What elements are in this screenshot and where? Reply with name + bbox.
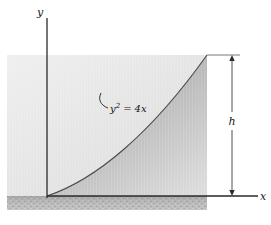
region-texture (7, 55, 207, 196)
ground-strip (7, 196, 207, 210)
equation-operator: = (123, 103, 131, 114)
parabola-figure: y x h y2=4x (0, 0, 271, 225)
equation-exponent: 2 (115, 102, 121, 110)
height-label: h (228, 115, 235, 128)
dimension-arrow-bottom (229, 190, 234, 196)
dimension-arrow-top (229, 55, 234, 61)
y-axis-label: y (36, 6, 44, 19)
equation-label: y2=4x (109, 102, 147, 114)
equation-right: 4x (134, 103, 147, 114)
height-dimension: h (207, 55, 240, 196)
ground-speckle (7, 196, 207, 210)
shaded-region (7, 55, 207, 196)
x-axis-label: x (260, 190, 267, 203)
figure-canvas: y x h y2=4x (0, 0, 271, 225)
